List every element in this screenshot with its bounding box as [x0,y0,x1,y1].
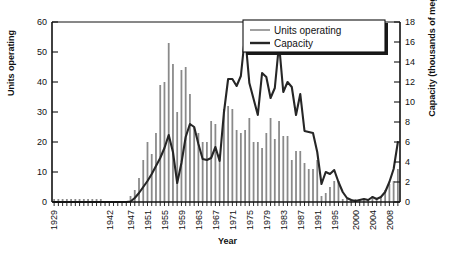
legend-label-capacity: Capacity [274,38,313,49]
y-tick-label-left: 10 [37,167,47,177]
x-tick-label-2008: 2008 [385,210,395,230]
bar-1990 [312,169,314,202]
bar-1958 [176,112,178,202]
x-axis-ticks: 1929194219471951195519591963196719711975… [49,202,397,230]
y-tick-label-right: 0 [405,197,410,207]
y-tick-label-right: 14 [405,57,415,67]
bar-1956 [168,43,170,202]
bar-1994 [329,187,331,202]
bar-1965 [206,142,208,202]
chart-figure: Units operating Capacity (thousands of m… [0,0,455,258]
x-tick-label-2000: 2000 [351,210,361,230]
bar-2008 [389,184,391,202]
x-tick-label-1951: 1951 [143,210,153,230]
x-tick-label-1963: 1963 [194,210,204,230]
y-tick-label-right: 10 [405,97,415,107]
y-tick-label-right: 16 [405,37,415,47]
bar-1989 [308,169,310,202]
bar-1981 [274,139,276,202]
bar-1954 [159,85,161,202]
bar-1980 [270,118,272,202]
x-axis-title: Year [0,236,455,246]
bar-1966 [210,121,212,202]
y-tick-label-left: 30 [37,107,47,117]
bar-series [53,43,399,202]
x-tick-label-1975: 1975 [245,210,255,230]
x-tick-label-1947: 1947 [126,210,136,230]
bar-1951 [147,142,149,202]
bar-1984 [287,136,289,202]
bar-2010 [397,169,399,202]
bar-1992 [321,196,323,202]
legend-label-units-operating: Units operating [274,25,341,36]
bar-1987 [299,151,301,202]
bar-1986 [295,151,297,202]
x-tick-label-1987: 1987 [296,210,306,230]
x-tick-label-1955: 1955 [160,210,170,230]
y-tick-label-left: 60 [37,17,47,27]
y-axis-right-title: Capacity (thousands of megawatts) [427,0,437,134]
y-tick-label-right: 6 [405,137,410,147]
y-axis-left-ticks: 0102030405060 [37,17,58,207]
y-tick-label-right: 8 [405,117,410,127]
bar-1995 [333,181,335,202]
capacity-line-series [54,35,398,202]
x-tick-label-1967: 1967 [211,210,221,230]
bar-1979 [265,133,267,202]
bar-1988 [304,163,306,202]
bar-1978 [261,148,263,202]
bar-1967 [215,124,217,202]
y-tick-label-left: 20 [37,137,47,147]
chart-plot-area: 0102030405060 024681012141618 1929194219… [0,0,455,258]
bar-1985 [291,160,293,202]
y-tick-label-right: 18 [405,17,415,27]
y-tick-label-left: 0 [42,197,47,207]
y-tick-label-left: 50 [37,47,47,57]
x-tick-label-1995: 1995 [330,210,340,230]
x-tick-label-1979: 1979 [262,210,272,230]
bar-1959 [181,70,183,202]
bar-1970 [227,106,229,202]
y-tick-label-right: 2 [405,177,410,187]
bar-1962 [193,127,195,202]
bar-1961 [189,94,191,202]
bar-1952 [151,154,153,202]
x-tick-label-1971: 1971 [228,210,238,230]
bar-1993 [325,193,327,202]
chart-legend: Units operatingCapacity [243,20,388,55]
bar-1955 [164,82,166,202]
x-tick-label-1929: 1929 [49,210,59,230]
y-tick-label-left: 40 [37,77,47,87]
bar-1977 [257,142,259,202]
bar-1983 [282,136,284,202]
x-tick-label-1959: 1959 [177,210,187,230]
bar-1974 [244,130,246,202]
bar-1982 [278,121,280,202]
bar-1972 [236,130,238,202]
bar-1975 [248,118,250,202]
y-tick-label-right: 12 [405,77,415,87]
y-tick-label-right: 4 [405,157,410,167]
bar-1950 [142,160,144,202]
bar-1973 [240,133,242,202]
bar-1964 [202,142,204,202]
x-tick-label-2004: 2004 [368,210,378,230]
bar-1991 [316,160,318,202]
bar-1976 [253,142,255,202]
bar-1949 [138,178,140,202]
x-tick-label-1983: 1983 [279,210,289,230]
bar-1957 [172,64,174,202]
x-tick-label-1942: 1942 [105,210,115,230]
x-tick-label-1991: 1991 [313,210,323,230]
bar-2009 [393,181,395,202]
bar-1971 [231,109,233,202]
y-axis-left-title: Units operating [6,0,16,128]
